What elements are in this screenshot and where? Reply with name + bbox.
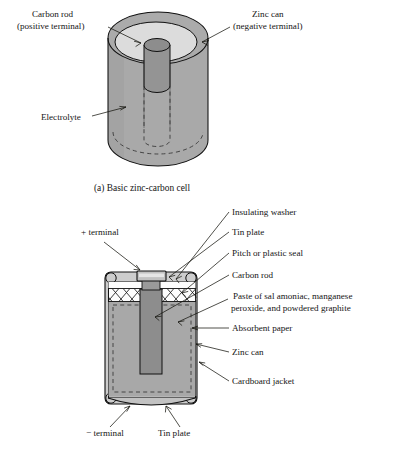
tin-plate-cap-highlight [139,274,164,278]
carbon-rod-body [144,45,170,93]
label-positive-terminal: + terminal [81,227,119,237]
label-pitch-seal: Pitch or plastic seal [232,248,303,258]
label-carbon-rod-b: Carbon rod [232,270,274,280]
label-zinc-can-line1: Zinc can [252,9,284,19]
label-negative-terminal: − terminal [86,428,124,438]
label-carbon-rod-line1: Carbon rod [32,9,74,19]
carbon-rod-section [140,289,162,374]
label-carbon-rod-line2: (positive terminal) [17,21,84,31]
label-zinc-can-b: Zinc can [232,347,264,357]
caption-a: (a) Basic zinc-carbon cell [94,183,190,194]
label-tin-plate-bottom: Tin plate [158,428,190,438]
label-electrolyte: Electrolyte [41,112,81,122]
label-paste-line1: Paste of sal amoniac, manganese [233,291,352,301]
label-zinc-can-line2: (negative terminal) [233,21,302,31]
label-insulating-washer: Insulating washer [232,207,296,217]
zinc-carbon-cell-figure: Carbon rod (positive terminal) Zinc can … [0,0,395,455]
carbon-rod-top [144,39,170,52]
label-cardboard-jacket: Cardboard jacket [232,376,295,386]
label-tin-plate-top: Tin plate [232,227,264,237]
label-paste-line2: peroxide, and powdered graphite [231,303,351,313]
figure-root: Carbon rod (positive terminal) Zinc can … [0,0,395,455]
label-absorbent-paper: Absorbent paper [232,323,292,333]
